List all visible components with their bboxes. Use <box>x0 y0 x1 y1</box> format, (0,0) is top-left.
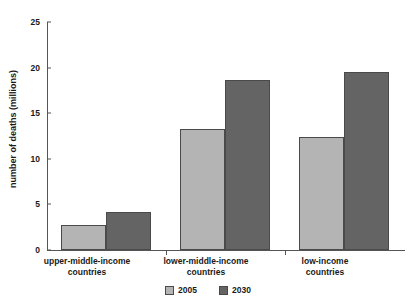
legend: 2005 2030 <box>0 285 416 295</box>
legend-swatch-2030-icon <box>219 286 228 295</box>
y-tick-mark-0 <box>47 250 51 251</box>
y-tick-0: 0 <box>35 245 47 255</box>
x-category-line-1: lower-middle-income <box>160 256 252 267</box>
bar-2030-upper-middle-income <box>106 212 151 250</box>
y-tick-25: 25 <box>31 17 47 27</box>
y-axis-title: number of deaths (millions) <box>6 4 20 254</box>
y-tick-5: 5 <box>35 199 47 209</box>
bar-2030-low-income <box>344 72 389 250</box>
y-tick-mark-25 <box>47 22 51 23</box>
bar-chart: number of deaths (millions) 0 5 10 15 20… <box>0 0 416 302</box>
x-tick-1 <box>166 250 167 255</box>
x-category-line-2: countries <box>160 267 252 278</box>
y-tick-label-0: 0 <box>35 245 47 255</box>
x-category-line-2: countries <box>41 267 133 278</box>
y-tick-mark-10 <box>47 158 51 159</box>
y-tick-mark-15 <box>47 113 51 114</box>
bar-2005-low-income <box>299 137 344 250</box>
legend-swatch-2005-icon <box>165 286 174 295</box>
plot-area: 0 5 10 15 20 25 <box>47 22 405 250</box>
x-category-label-low-income: low-income countries <box>279 256 371 277</box>
x-category-line-1: upper-middle-income <box>41 256 133 267</box>
y-tick-label-20: 20 <box>31 63 47 73</box>
y-tick-15: 15 <box>31 108 47 118</box>
x-category-line-1: low-income <box>279 256 371 267</box>
x-tick-2 <box>285 250 286 255</box>
legend-item-2030[interactable]: 2030 <box>219 285 251 295</box>
y-tick-mark-20 <box>47 67 51 68</box>
x-category-label-lower-middle-income: lower-middle-income countries <box>160 256 252 277</box>
legend-item-2005[interactable]: 2005 <box>165 285 197 295</box>
bar-2005-upper-middle-income <box>61 225 106 251</box>
bar-2030-lower-middle-income <box>225 80 270 250</box>
y-tick-20: 20 <box>31 63 47 73</box>
cropped-title-remnant <box>28 0 398 1</box>
x-axis-line <box>47 250 405 251</box>
y-tick-mark-5 <box>47 204 51 205</box>
legend-label-2030: 2030 <box>232 285 251 295</box>
x-category-label-upper-middle-income: upper-middle-income countries <box>41 256 133 277</box>
y-tick-10: 10 <box>31 154 47 164</box>
x-category-line-2: countries <box>279 267 371 278</box>
legend-label-2005: 2005 <box>178 285 197 295</box>
y-tick-label-5: 5 <box>35 199 47 209</box>
y-tick-label-10: 10 <box>31 154 47 164</box>
bar-2005-lower-middle-income <box>180 129 225 250</box>
y-tick-label-25: 25 <box>31 17 47 27</box>
y-tick-label-15: 15 <box>31 108 47 118</box>
